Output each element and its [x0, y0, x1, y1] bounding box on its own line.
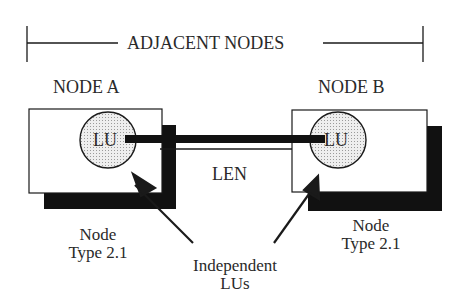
node-b-type: Node Type 2.1: [331, 217, 411, 253]
independent-lus-callout: Independent LUs: [170, 257, 300, 293]
callout-line2: LUs: [170, 275, 300, 293]
node-a-type-line2: Type 2.1: [58, 244, 138, 262]
callout-line1: Independent: [170, 257, 300, 275]
node-a-type: Node Type 2.1: [58, 226, 138, 262]
node-b-type-line2: Type 2.1: [331, 235, 411, 253]
node-a-type-line1: Node: [58, 226, 138, 244]
node-b-type-line1: Node: [331, 217, 411, 235]
node-b-label: NODE B: [318, 78, 385, 96]
node-a-lu-label: LU: [93, 131, 117, 149]
node-b-lu-label: LU: [324, 131, 348, 149]
node-a-label: NODE A: [53, 78, 120, 96]
diagram-title: ADJACENT NODES: [127, 34, 284, 52]
lu-session-bar: [125, 135, 325, 143]
len-label: LEN: [212, 165, 247, 183]
node-a: [29, 109, 176, 209]
